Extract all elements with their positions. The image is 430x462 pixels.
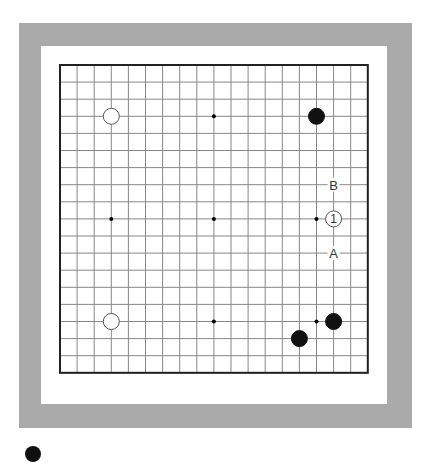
white-stone-icon[interactable] (103, 108, 119, 124)
point-label-b: B (329, 178, 338, 193)
star-point-icon (212, 320, 216, 324)
star-point-icon (315, 217, 319, 221)
white-stone-icon[interactable] (103, 314, 119, 330)
stone-move-number: 1 (330, 212, 337, 226)
black-stone-icon[interactable] (291, 331, 307, 347)
star-point-icon (315, 320, 319, 324)
star-point-icon (212, 217, 216, 221)
black-stone-icon[interactable] (309, 108, 325, 124)
star-point-icon (212, 114, 216, 118)
star-point-icon (109, 217, 113, 221)
caption-black-stone-icon (25, 446, 41, 462)
black-stone-icon[interactable] (326, 314, 342, 330)
point-label-a: A (329, 246, 338, 261)
